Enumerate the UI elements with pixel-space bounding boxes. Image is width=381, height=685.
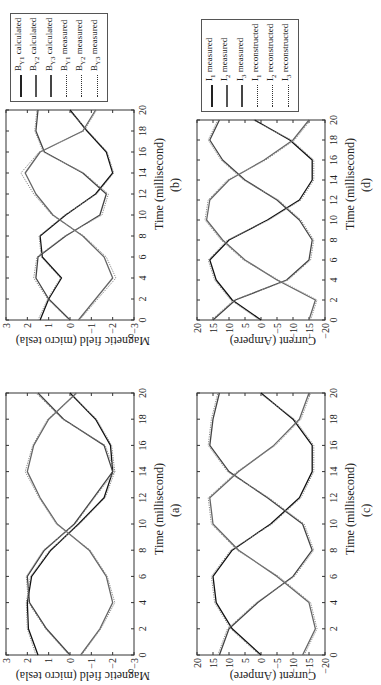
caption-c: (c)	[359, 504, 374, 517]
legend-item: BY3 measured	[89, 18, 104, 97]
x-tick-label: 20	[137, 105, 148, 115]
x-tick-label: 2	[328, 298, 339, 303]
ylabel-d: Current (Ampere)	[230, 333, 316, 348]
x-tick-label: 14	[137, 467, 148, 477]
x-tick-label: 18	[137, 126, 148, 136]
dotted-line-swatch-icon	[81, 75, 82, 97]
series-line	[213, 393, 312, 655]
legend-label: I3 reconstructed	[280, 24, 295, 81]
y-tick-label: 0	[256, 323, 267, 328]
y-tick-label: 3	[1, 323, 12, 328]
legend-label: I2 reconstructed	[265, 24, 280, 81]
ylabel-b: Magnetic field (micro tesla)	[16, 333, 150, 348]
y-tick-label: 10	[224, 658, 235, 668]
legend-item: BY2 calculated	[28, 18, 43, 97]
plot-frame	[197, 393, 325, 655]
y-tick-label: 3	[1, 658, 12, 663]
x-tick-label: 4	[328, 278, 339, 283]
series-line	[210, 393, 316, 655]
legend-item: I2 measured	[219, 24, 234, 107]
x-tick-label: 14	[137, 168, 148, 178]
legend-item: BY1 calculated	[13, 18, 28, 97]
y-tick-label: 0	[256, 658, 267, 663]
x-tick-label: 0	[328, 318, 339, 323]
solid-line-swatch-icon	[50, 75, 52, 97]
x-tick-label: 14	[328, 467, 339, 477]
series-line	[210, 393, 312, 655]
solid-line-swatch-icon	[35, 75, 37, 97]
y-tick-label: 20	[192, 658, 203, 668]
x-tick-label: 16	[328, 440, 339, 450]
caption-a: (a)	[168, 504, 183, 517]
x-tick-label: 2	[137, 626, 148, 631]
ylabel-a: Magnetic field (micro tesla)	[16, 668, 150, 683]
dotted-line-swatch-icon	[66, 75, 67, 97]
x-tick-label: 4	[328, 600, 339, 605]
x-tick-label: 10	[328, 519, 339, 529]
solid-line-swatch-icon	[211, 85, 213, 107]
x-tick-label: 6	[137, 255, 148, 260]
legend-item: BY2 measured	[74, 18, 89, 97]
x-tick-label: 0	[328, 653, 339, 658]
y-tick-label: −20	[320, 323, 331, 339]
x-tick-label: 20	[328, 115, 339, 125]
xlabel-b: Time (millisecond)	[152, 138, 167, 230]
x-tick-label: 14	[328, 175, 339, 185]
x-tick-label: 6	[137, 574, 148, 579]
legend-label: BY3 measured	[89, 20, 104, 71]
x-tick-label: 10	[328, 215, 339, 225]
y-tick-label: −20	[320, 658, 331, 674]
legend-item: I3 reconstructed	[280, 24, 295, 107]
xlabel-c: Time (millisecond)	[343, 463, 358, 555]
xlabel-d: Time (millisecond)	[343, 138, 358, 230]
legend-label: BY2 calculated	[28, 18, 43, 71]
x-tick-label: 10	[137, 519, 148, 529]
x-tick-label: 18	[137, 414, 148, 424]
legend-label: BY3 calculated	[44, 18, 59, 71]
y-tick-label: 15	[208, 658, 219, 668]
series-line	[36, 110, 106, 320]
legend-item: BY1 measured	[59, 18, 74, 97]
legend-label: I1 measured	[204, 38, 219, 81]
x-tick-label: 16	[137, 147, 148, 157]
x-tick-label: 8	[328, 238, 339, 243]
x-tick-label: 12	[328, 195, 339, 205]
plot-frame	[6, 110, 134, 320]
xlabel-a: Time (millisecond)	[152, 463, 167, 555]
y-tick-label: 0	[65, 658, 76, 663]
legend-item: I3 measured	[235, 24, 250, 107]
x-tick-label: 10	[137, 210, 148, 220]
y-tick-label: 20	[192, 323, 203, 333]
legend-item: I1 measured	[204, 24, 219, 107]
x-tick-label: 16	[137, 440, 148, 450]
y-tick-label: 15	[208, 323, 219, 333]
solid-line-swatch-icon	[226, 85, 228, 107]
dotted-line-swatch-icon	[97, 75, 98, 97]
caption-b: (b)	[168, 178, 183, 192]
y-tick-label: 10	[224, 323, 235, 333]
legend-label: BY2 measured	[74, 20, 89, 71]
caption-d: (d)	[359, 178, 374, 192]
y-tick-label: 2	[22, 323, 33, 328]
x-tick-label: 2	[328, 626, 339, 631]
x-tick-label: 0	[137, 653, 148, 658]
y-tick-label: 2	[22, 658, 33, 663]
x-tick-label: 12	[137, 493, 148, 503]
panel-a: 02468101214161820−3−2−10123 Magnetic fie…	[0, 355, 190, 685]
series-line	[211, 393, 313, 655]
x-tick-label: 6	[328, 258, 339, 263]
y-tick-label: 5	[240, 658, 251, 663]
y-tick-label: 5	[240, 323, 251, 328]
x-tick-label: 18	[328, 135, 339, 145]
y-tick-label: 0	[65, 323, 76, 328]
x-tick-label: 20	[328, 388, 339, 398]
solid-line-swatch-icon	[20, 75, 22, 97]
x-tick-label: 8	[137, 548, 148, 553]
x-tick-label: 6	[328, 574, 339, 579]
x-tick-label: 0	[137, 318, 148, 323]
legend-d: I1 measuredI2 measuredI3 measuredI1 reco…	[201, 19, 299, 112]
y-tick-label: 1	[43, 658, 54, 663]
solid-line-swatch-icon	[241, 85, 243, 107]
panel-c: 02468101214161820−20−15−10−505101520 Cur…	[191, 355, 381, 685]
legend-label: I3 measured	[235, 38, 250, 81]
